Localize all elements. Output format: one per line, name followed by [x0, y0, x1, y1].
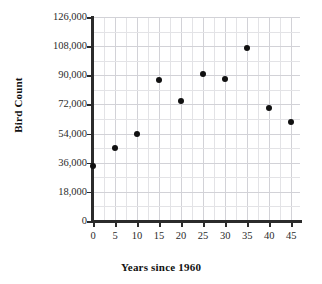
y-axis-tick-label: 126,000: [31, 12, 87, 23]
gridline-horizontal: [93, 46, 300, 47]
x-axis-tick: [247, 221, 249, 227]
gridline-horizontal: [93, 177, 300, 178]
gridline-horizontal: [93, 119, 300, 120]
gridline-horizontal: [93, 192, 300, 193]
y-axis-tick-label: 90,000: [31, 70, 87, 81]
y-axis-tick-label: 108,000: [31, 41, 87, 52]
data-point: [244, 45, 250, 51]
gridline-horizontal: [93, 75, 300, 76]
x-axis-tick: [159, 221, 161, 227]
gridline-horizontal: [93, 206, 300, 207]
x-axis-tick-label: 35: [235, 231, 259, 242]
gridline-horizontal: [93, 90, 300, 91]
y-axis-tick-labels: 018,00036,00054,00072,00090,000108,00012…: [27, 0, 87, 284]
y-axis-tick-label: 0: [31, 216, 87, 227]
data-point: [266, 105, 272, 111]
x-axis-tick: [181, 221, 183, 227]
scatter-chart: 018,00036,00054,00072,00090,000108,00012…: [0, 0, 322, 284]
data-point: [222, 76, 228, 82]
plot-area: [93, 17, 300, 221]
x-axis-tick-label: 5: [103, 231, 127, 242]
gridline-horizontal: [93, 32, 300, 33]
y-axis-tick-label: 18,000: [31, 187, 87, 198]
data-point: [200, 71, 206, 77]
gridline-horizontal: [93, 61, 300, 62]
y-axis-tick-label: 36,000: [31, 158, 87, 169]
x-axis-tick: [203, 221, 205, 227]
x-axis-tick-label: 10: [125, 231, 149, 242]
x-axis-tick: [225, 221, 227, 227]
y-axis-tick: [87, 192, 94, 194]
x-axis-tick-label: 15: [147, 231, 171, 242]
x-axis-tick: [115, 221, 117, 227]
x-axis-tick: [269, 221, 271, 227]
y-axis-tick: [87, 17, 94, 19]
y-axis-tick-label: 72,000: [31, 99, 87, 110]
y-axis-tick: [87, 104, 94, 106]
y-axis-tick: [87, 75, 94, 77]
x-axis-tick-label: 40: [257, 231, 281, 242]
x-axis-tick-label: 25: [191, 231, 215, 242]
x-axis-tick-label: 30: [213, 231, 237, 242]
gridline-horizontal: [93, 17, 300, 18]
data-point: [134, 131, 140, 137]
data-point: [90, 163, 96, 169]
gridline-horizontal: [93, 148, 300, 149]
x-axis-tick-label: 45: [279, 231, 303, 242]
y-axis-tick: [87, 134, 94, 136]
gridline-horizontal: [93, 163, 300, 164]
x-axis-tick: [291, 221, 293, 227]
y-axis-tick-label: 54,000: [31, 129, 87, 140]
x-axis-tick: [93, 221, 95, 227]
y-axis-tick: [87, 46, 94, 48]
x-axis-tick-label: 0: [81, 231, 105, 242]
x-axis-title: Years since 1960: [61, 261, 261, 273]
y-axis-title: Bird Count: [12, 55, 24, 155]
x-axis-tick-label: 20: [169, 231, 193, 242]
x-axis-tick: [137, 221, 139, 227]
gridline-horizontal: [93, 134, 300, 135]
